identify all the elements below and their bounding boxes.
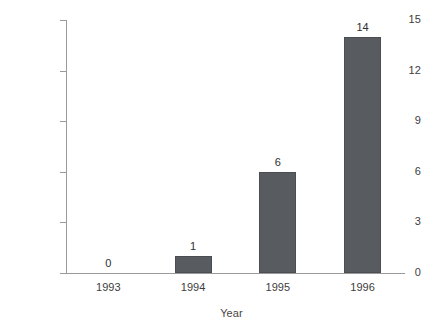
bar-1995 [259, 172, 296, 273]
plot-area: 01614 [66, 20, 405, 273]
bar-chart-figure: Resistant Isolates, percent 03691215 016… [0, 0, 421, 335]
bar-value-1996: 14 [333, 21, 393, 33]
x-axis-line [66, 273, 405, 274]
x-tick-label-1996: 1996 [323, 281, 403, 293]
x-tick-label-1995: 1995 [238, 281, 318, 293]
x-axis-title-text: Year [220, 307, 243, 319]
bar-1996 [344, 37, 381, 273]
bar-1994 [175, 256, 212, 273]
x-tick-label-1993: 1993 [68, 281, 148, 293]
x-tick-label-1994: 1994 [153, 281, 233, 293]
bar-value-1993: 0 [78, 257, 138, 269]
bar-value-1995: 6 [248, 156, 308, 168]
bar-value-1994: 1 [163, 240, 223, 252]
x-axis-title: Year [0, 307, 421, 319]
y-tick-mark [60, 273, 66, 274]
